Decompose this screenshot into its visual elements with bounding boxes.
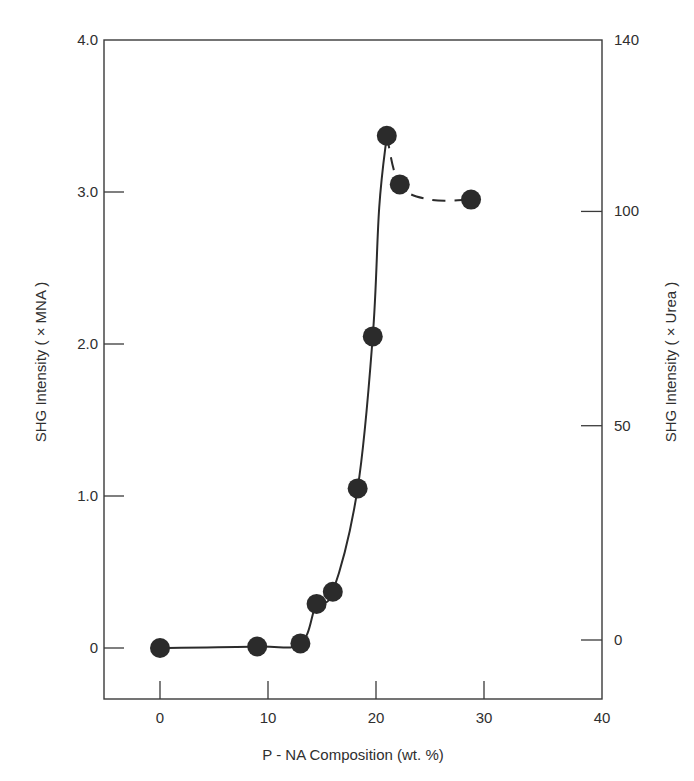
right-y-axis-title: SHG Intensity ( × Urea ) xyxy=(662,282,679,442)
x-axis: 010203040 xyxy=(156,681,611,726)
fit-curves xyxy=(160,136,471,648)
data-point-marker xyxy=(348,478,368,498)
data-point-marker xyxy=(290,633,310,653)
data-point-marker xyxy=(461,190,481,210)
x-tick-label: 0 xyxy=(156,709,164,726)
right-y-tick-label: 50 xyxy=(614,417,631,434)
left-y-tick-label: 3.0 xyxy=(77,183,98,200)
data-point-marker xyxy=(377,126,397,146)
solid-fit-curve xyxy=(160,136,387,648)
left-y-tick-label: 1.0 xyxy=(77,487,98,504)
shg-chart: 01.02.03.04.0 050100140 010203040 P - NA… xyxy=(0,0,694,781)
data-point-marker xyxy=(390,174,410,194)
data-point-marker xyxy=(323,582,343,602)
data-point-marker xyxy=(307,594,327,614)
data-points xyxy=(150,126,481,658)
x-tick-label: 30 xyxy=(476,709,493,726)
plot-border xyxy=(104,40,602,699)
left-y-tick-label: 4.0 xyxy=(77,31,98,48)
data-point-marker xyxy=(363,326,383,346)
data-point-marker xyxy=(150,638,170,658)
x-tick-label: 20 xyxy=(368,709,385,726)
right-y-tick-label: 140 xyxy=(614,31,639,48)
left-y-tick-label: 0 xyxy=(90,639,98,656)
right-y-tick-label: 100 xyxy=(614,202,639,219)
plot-frame xyxy=(104,40,602,699)
left-y-tick-label: 2.0 xyxy=(77,335,98,352)
x-tick-label: 40 xyxy=(594,709,611,726)
left-y-axis-title: SHG Intensity ( × MNA ) xyxy=(32,282,49,442)
right-y-tick-label: 0 xyxy=(614,631,622,648)
x-tick-label: 10 xyxy=(260,709,277,726)
x-axis-title: P - NA Composition (wt. %) xyxy=(262,746,443,763)
data-point-marker xyxy=(247,636,267,656)
left-y-axis: 01.02.03.04.0 xyxy=(77,31,124,656)
right-y-axis: 050100140 xyxy=(581,31,639,648)
